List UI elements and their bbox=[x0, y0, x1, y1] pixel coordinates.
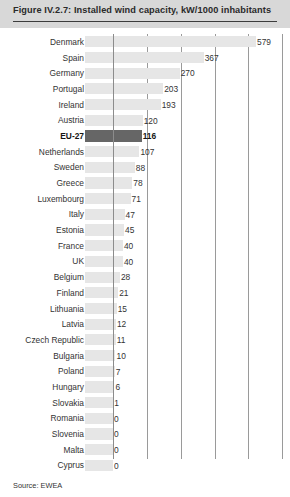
bar-lithuania bbox=[85, 303, 117, 314]
bar-slovenia bbox=[85, 428, 113, 439]
table-row: Ireland193 bbox=[0, 97, 290, 113]
bar-label-czech-republic: Czech Republic bbox=[0, 335, 84, 345]
bar-sweden bbox=[85, 162, 135, 173]
table-row: Sweden88 bbox=[0, 160, 290, 176]
bar-label-netherlands: Netherlands bbox=[0, 147, 84, 157]
table-row: Netherlands107 bbox=[0, 144, 290, 160]
title-divider bbox=[13, 21, 277, 22]
table-row: Latvia12 bbox=[0, 316, 290, 332]
bar-value-poland: 7 bbox=[116, 367, 121, 377]
bar-value-luxembourg: 71 bbox=[132, 194, 141, 204]
bar-value-denmark: 579 bbox=[257, 37, 271, 47]
table-row: France40 bbox=[0, 238, 290, 254]
bar-label-portugal: Portugal bbox=[0, 84, 84, 94]
bar-zone: 193 bbox=[84, 97, 290, 113]
bar-value-belgium: 28 bbox=[121, 272, 130, 282]
bar-value-slovakia: 1 bbox=[114, 398, 119, 408]
bar-label-denmark: Denmark bbox=[0, 37, 84, 47]
table-row: Germany270 bbox=[0, 65, 290, 81]
bar-slovakia bbox=[85, 397, 113, 408]
bar-label-bulgaria: Bulgaria bbox=[0, 351, 84, 361]
bar-zone: 579 bbox=[84, 34, 290, 50]
bar-value-netherlands: 107 bbox=[140, 147, 154, 157]
table-row: EU-27116 bbox=[0, 128, 290, 144]
bar-zone: 78 bbox=[84, 175, 290, 191]
table-row: Malta0 bbox=[0, 442, 290, 458]
bar-denmark bbox=[85, 36, 256, 47]
bar-zone: 28 bbox=[84, 269, 290, 285]
table-row: Czech Republic11 bbox=[0, 332, 290, 348]
table-row: Romania0 bbox=[0, 411, 290, 427]
table-row: Cyprus0 bbox=[0, 458, 290, 474]
bar-zone: 107 bbox=[84, 144, 290, 160]
bar-germany bbox=[85, 68, 180, 79]
bar-portugal bbox=[85, 83, 163, 94]
bar-zone: 45 bbox=[84, 222, 290, 238]
table-row: Poland7 bbox=[0, 363, 290, 379]
bar-ireland bbox=[85, 99, 161, 110]
bar-zone: 1 bbox=[84, 395, 290, 411]
bar-zone: 116 bbox=[84, 128, 290, 144]
bar-label-lithuania: Lithuania bbox=[0, 304, 84, 314]
bar-value-latvia: 12 bbox=[117, 319, 126, 329]
bar-value-malta: 0 bbox=[114, 445, 119, 455]
bar-label-poland: Poland bbox=[0, 366, 84, 376]
table-row: Belgium28 bbox=[0, 269, 290, 285]
bar-label-italy: Italy bbox=[0, 209, 84, 219]
bar-zone: 40 bbox=[84, 238, 290, 254]
table-row: Luxembourg71 bbox=[0, 191, 290, 207]
table-row: Italy47 bbox=[0, 207, 290, 223]
bar-latvia bbox=[85, 319, 116, 330]
bar-czech-republic bbox=[85, 334, 116, 345]
table-row: Hungary6 bbox=[0, 379, 290, 395]
source-note: Source: EWEA bbox=[13, 481, 62, 490]
bar-label-eu-27: EU-27 bbox=[0, 131, 84, 141]
table-row: Portugal203 bbox=[0, 81, 290, 97]
bar-label-uk: UK bbox=[0, 256, 84, 266]
bar-value-portugal: 203 bbox=[164, 84, 178, 94]
bar-value-uk: 40 bbox=[124, 257, 133, 267]
bar-value-cyprus: 0 bbox=[114, 461, 119, 471]
chart-bar-rows: Denmark579Spain367Germany270Portugal203I… bbox=[0, 34, 290, 473]
bar-label-cyprus: Cyprus bbox=[0, 460, 84, 470]
bar-label-austria: Austria bbox=[0, 115, 84, 125]
bar-greece bbox=[85, 177, 132, 188]
bar-label-malta: Malta bbox=[0, 445, 84, 455]
bar-belgium bbox=[85, 272, 120, 283]
figure-title-band: Figure IV.2.7: Installed wind capacity, … bbox=[0, 0, 290, 28]
bar-value-bulgaria: 10 bbox=[116, 351, 125, 361]
bar-spain bbox=[85, 52, 204, 63]
bar-zone: 0 bbox=[84, 442, 290, 458]
bar-zone: 21 bbox=[84, 285, 290, 301]
bar-label-latvia: Latvia bbox=[0, 319, 84, 329]
bar-zone: 88 bbox=[84, 160, 290, 176]
bar-label-france: France bbox=[0, 241, 84, 251]
bar-zone: 40 bbox=[84, 254, 290, 270]
bar-value-czech-republic: 11 bbox=[117, 335, 126, 345]
bar-label-ireland: Ireland bbox=[0, 100, 84, 110]
bar-estonia bbox=[85, 224, 124, 235]
bar-value-spain: 367 bbox=[205, 53, 219, 63]
bar-romania bbox=[85, 413, 113, 424]
bar-label-slovenia: Slovenia bbox=[0, 429, 84, 439]
bar-zone: 6 bbox=[84, 379, 290, 395]
bar-label-luxembourg: Luxembourg bbox=[0, 194, 84, 204]
table-row: Austria120 bbox=[0, 112, 290, 128]
bar-label-spain: Spain bbox=[0, 53, 84, 63]
table-row: Lithuania15 bbox=[0, 301, 290, 317]
bar-value-finland: 21 bbox=[119, 288, 128, 298]
bar-zone: 15 bbox=[84, 301, 290, 317]
axis-baseline bbox=[113, 34, 114, 459]
bar-value-austria: 120 bbox=[144, 116, 158, 126]
bar-malta bbox=[85, 444, 113, 455]
bar-zone: 47 bbox=[84, 207, 290, 223]
bar-label-slovakia: Slovakia bbox=[0, 398, 84, 408]
bar-zone: 71 bbox=[84, 191, 290, 207]
bar-bulgaria bbox=[85, 350, 115, 361]
table-row: Spain367 bbox=[0, 50, 290, 66]
bar-zone: 367 bbox=[84, 50, 290, 66]
bar-zone: 0 bbox=[84, 426, 290, 442]
bar-label-hungary: Hungary bbox=[0, 382, 84, 392]
bar-value-greece: 78 bbox=[133, 178, 142, 188]
bar-value-hungary: 6 bbox=[115, 382, 120, 392]
